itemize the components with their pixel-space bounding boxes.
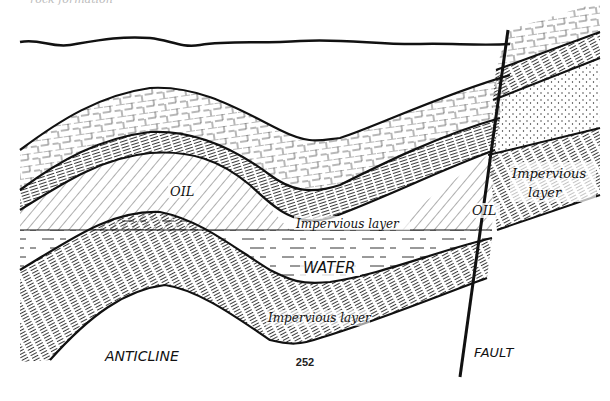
impervious-label-lower: Impervious layer — [267, 311, 372, 325]
ground-surface-line — [20, 37, 510, 45]
page-number: 252 — [0, 356, 610, 368]
impervious-label-right-1: Impervious — [511, 166, 586, 181]
oil-label-right: OIL — [472, 203, 496, 218]
anticline-oil-trap-diagram: OIL Impervious layer OIL Impervious laye… — [0, 0, 610, 401]
impervious-label-right-2: layer — [528, 185, 562, 200]
water-label: WATER — [303, 259, 355, 277]
oil-label-left: OIL — [170, 184, 194, 199]
impervious-label-upper: Impervious layer — [295, 217, 400, 231]
